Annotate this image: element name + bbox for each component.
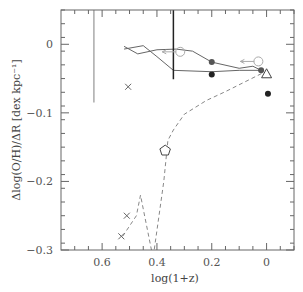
plot-frame [61,10,294,250]
x-tick-label: 0.6 [93,256,111,269]
y-tick-label: 0 [46,38,53,51]
open-circle-marker [176,47,185,56]
cross-marker [124,213,130,219]
filled-circle-marker [265,91,271,97]
cross-marker [125,84,131,90]
cross-marker [118,233,124,239]
axis-ticks: 0.60.40.200−0.1−0.2−0.3 [26,10,294,269]
model-track-line [124,46,261,70]
model-track-line [123,72,264,250]
y-tick-label: −0.3 [26,244,53,257]
series-group [94,10,272,250]
y-tick-label: −0.2 [26,175,53,188]
filled-circle-marker [258,67,264,73]
x-tick-label: 0.2 [203,256,221,269]
x-tick-label: 0.4 [148,256,166,269]
arrow-icon [162,50,176,54]
y-tick-label: −0.1 [26,107,53,120]
x-tick-label: 0 [263,256,270,269]
y-axis-label: Δlog(O/H)/ΔR [dex kpc⁻¹] [10,59,23,200]
chart: 0.60.40.200−0.1−0.2−0.3 log(1+z) Δlog(O/… [0,0,303,292]
arrow-icon [240,59,254,63]
filled-circle-marker [209,59,215,65]
x-axis-label: log(1+z) [151,272,199,285]
plot-area [94,10,272,250]
open-pentagon-marker [160,145,171,155]
filled-circle-marker [209,71,215,77]
open-circle-marker [254,57,263,66]
